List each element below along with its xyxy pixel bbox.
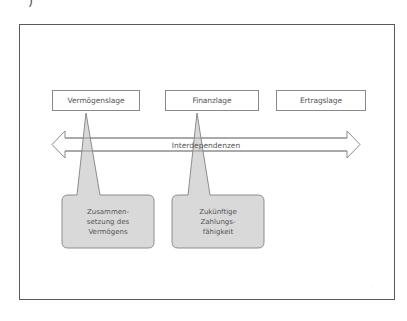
diagram-shapes bbox=[0, 0, 407, 321]
page-marker: · bbox=[370, 283, 372, 289]
callout-text-zahlungsfaehigkeit: Zukünftige Zahlungs- fähigkeit bbox=[172, 195, 264, 248]
arrow-label-interdependenzen: Interdependenzen bbox=[52, 139, 360, 151]
box-ertragslage: Ertragslage bbox=[276, 90, 366, 111]
box-finanzlage: Finanzlage bbox=[165, 90, 259, 111]
callout-text-vermoegen: Zusammen- setzung des Vermögens bbox=[62, 195, 154, 248]
box-vermoegenslage: Vermögenslage bbox=[52, 90, 140, 111]
